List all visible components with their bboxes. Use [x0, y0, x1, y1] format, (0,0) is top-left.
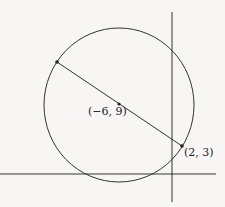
center-label: (−6, 9): [88, 105, 127, 118]
endpoint-left-dot: [55, 60, 59, 64]
endpoint-label: (2, 3): [184, 146, 214, 159]
diagram-canvas: [0, 0, 225, 207]
